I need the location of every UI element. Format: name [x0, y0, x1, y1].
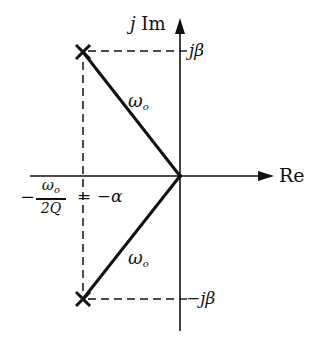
lower-vector-label: ωo — [128, 249, 149, 269]
lower-pole-icon — [76, 292, 90, 306]
imaginary-j: j — [130, 13, 136, 34]
real-axis — [30, 171, 274, 181]
imaginary-im: Im — [141, 13, 165, 34]
lower-jbeta-label: −jβ — [186, 290, 215, 307]
real-part-equals-alpha: = −α — [77, 188, 122, 205]
real-part-fraction: ωo 2Q — [36, 178, 66, 216]
s-plane-diagram — [0, 0, 324, 349]
subscript: o — [54, 184, 60, 195]
imaginary-axis-label: j Im — [130, 15, 166, 33]
subscript: o — [143, 101, 149, 112]
omega: ω — [128, 90, 143, 111]
upper-pole-icon — [76, 45, 90, 59]
upper-vector-line — [83, 52, 180, 176]
omega: ω — [128, 247, 143, 268]
real-axis-label: Re — [279, 166, 305, 185]
omega: ω — [42, 176, 54, 194]
upper-jbeta-label: jβ — [189, 42, 204, 59]
real-part-minus: − — [20, 188, 35, 206]
fraction-denominator: 2Q — [41, 201, 61, 216]
subscript: o — [143, 258, 149, 269]
fraction-numerator: ωo — [42, 178, 60, 197]
real-axis-arrow-icon — [258, 171, 274, 181]
imaginary-axis-arrow-icon — [175, 18, 185, 34]
upper-vector-label: ωo — [128, 92, 149, 112]
